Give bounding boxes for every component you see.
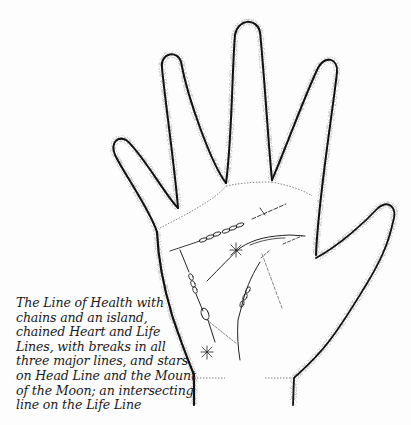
caption-line: of the Moon; an intersecting bbox=[16, 384, 231, 399]
caption-line: line on the Life Line bbox=[16, 398, 231, 413]
head-line bbox=[207, 235, 305, 281]
star-head-line bbox=[230, 243, 242, 257]
caption-line: Lines, with breaks in all bbox=[16, 340, 231, 355]
thumb bbox=[293, 204, 394, 405]
fate-line bbox=[262, 254, 282, 308]
caption-line: chained Heart and Life bbox=[16, 325, 231, 340]
figure-caption: The Line of Health with chains and an is… bbox=[16, 296, 231, 413]
life-line bbox=[238, 250, 270, 360]
caption-line: three major lines, and stars bbox=[16, 354, 231, 369]
heart-line bbox=[170, 204, 286, 251]
palmistry-figure: The Line of Health with chains and an is… bbox=[0, 0, 411, 425]
caption-line: on Head Line and the Mount bbox=[16, 369, 231, 384]
pinky-finger bbox=[113, 139, 178, 232]
caption-line: chains and an island, bbox=[16, 311, 231, 326]
caption-line: The Line of Health with bbox=[16, 296, 231, 311]
